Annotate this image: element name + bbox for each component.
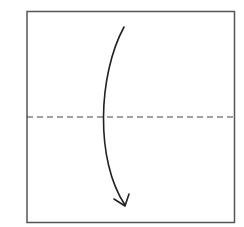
origami-diagram — [0, 0, 244, 227]
